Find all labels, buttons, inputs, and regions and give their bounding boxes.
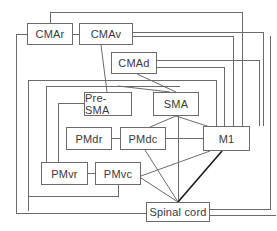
node-spinal-cord: Spinal cord bbox=[146, 202, 210, 222]
node-label: Pre-SMA bbox=[85, 92, 131, 116]
node-cmav: CMAv bbox=[79, 23, 133, 45]
node-cmar: CMAr bbox=[27, 23, 73, 45]
node-pmvr: PMvr bbox=[41, 162, 88, 185]
node-cmad: CMAd bbox=[111, 52, 157, 74]
node-label: PMdc bbox=[129, 133, 158, 145]
node-label: PMdr bbox=[75, 133, 102, 145]
node-label: M1 bbox=[219, 133, 235, 145]
node-label: CMAd bbox=[118, 57, 149, 69]
node-label: PMvc bbox=[104, 168, 132, 180]
node-pre-sma: Pre-SMA bbox=[84, 92, 132, 116]
node-m1: M1 bbox=[203, 126, 250, 151]
node-label: CMAv bbox=[91, 28, 122, 40]
node-label: SMA bbox=[164, 98, 188, 110]
diagram-canvas: CMAr CMAv CMAd Pre-SMA SMA PMdr PMdc M1 … bbox=[0, 0, 277, 231]
node-label: CMAr bbox=[36, 28, 65, 40]
node-pmvc: PMvc bbox=[95, 162, 141, 185]
node-pmdc: PMdc bbox=[120, 127, 166, 150]
node-label: Spinal cord bbox=[149, 206, 206, 218]
node-sma: SMA bbox=[153, 92, 199, 116]
node-pmdr: PMdr bbox=[66, 127, 112, 150]
node-label: PMvr bbox=[51, 168, 77, 180]
